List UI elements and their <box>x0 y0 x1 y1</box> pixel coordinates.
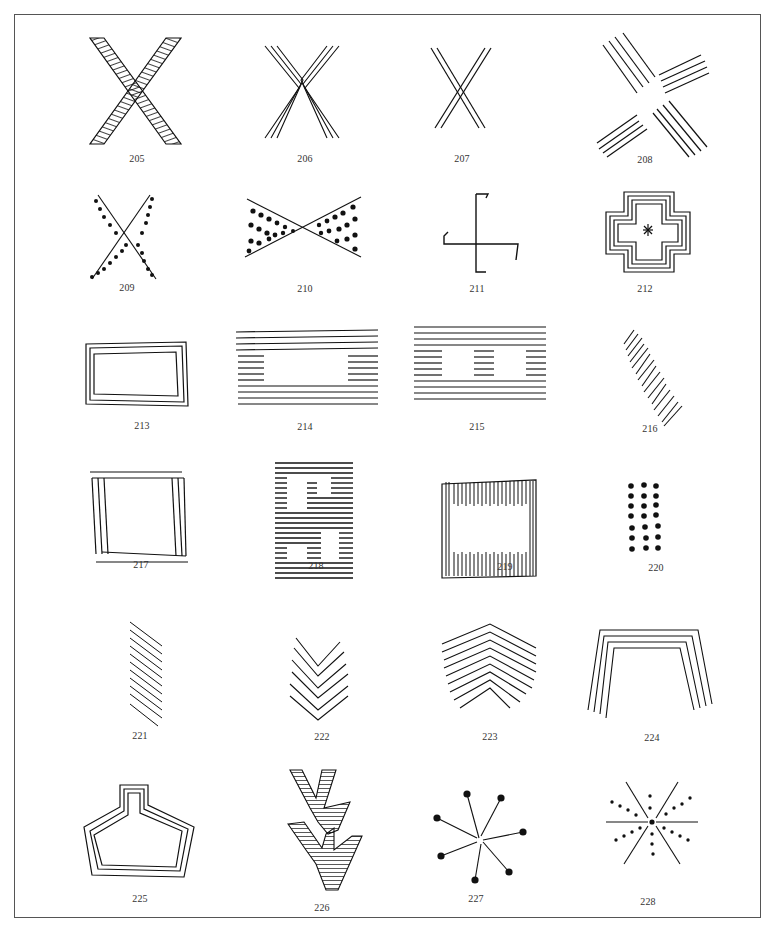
figure-221-slanted-parallel-lines <box>128 620 168 730</box>
figure-217-open-frame-with-double-sides <box>88 470 192 566</box>
figure-220-label: 220 <box>636 562 676 573</box>
figure-207-label: 207 <box>442 153 482 164</box>
figure-213-double-framed-rectangle <box>84 342 190 408</box>
figure-209-dotted-x <box>86 193 162 283</box>
figure-216-label: 216 <box>630 423 670 434</box>
figure-214-striped-band-with-panel <box>234 330 380 410</box>
figure-212-stepped-cross-with-star <box>600 190 692 274</box>
figure-225-label: 225 <box>120 893 160 904</box>
figure-214-label: 214 <box>285 421 325 432</box>
figure-215-striped-band-with-two-panels <box>412 325 548 407</box>
figure-221-label: 221 <box>120 730 160 741</box>
figure-226-hatched-branching-y <box>288 768 364 892</box>
figure-206-label: 206 <box>285 153 325 164</box>
figure-226-label: 226 <box>302 902 342 913</box>
figure-211-swastika-fylfot <box>440 192 520 274</box>
figure-224-nested-arch-lines <box>586 628 714 722</box>
figure-227-dotted-star-burst <box>435 790 527 882</box>
figure-218-label: 218 <box>296 560 336 571</box>
figure-210-dotted-hourglass <box>243 197 363 259</box>
figure-220-dot-grid <box>625 480 669 554</box>
figure-212-label: 212 <box>625 283 665 294</box>
figure-217-label: 217 <box>121 559 161 570</box>
figure-210-label: 210 <box>285 283 325 294</box>
figure-219-label: 219 <box>485 561 525 572</box>
figure-225-bottle-outline <box>84 783 204 879</box>
figure-227-label: 227 <box>456 893 496 904</box>
figure-222-label: 222 <box>302 731 342 742</box>
figure-206-triple-line-x <box>263 44 343 140</box>
figure-207-double-line-x <box>427 46 491 130</box>
figure-216-diagonal-hatched-band <box>620 328 684 428</box>
figure-211-label: 211 <box>457 283 497 294</box>
figure-205-label: 205 <box>117 153 157 164</box>
figure-224-label: 224 <box>632 732 672 743</box>
figure-209-label: 209 <box>107 282 147 293</box>
figure-208-label: 208 <box>625 154 665 165</box>
figure-213-label: 213 <box>122 420 162 431</box>
figure-222-nested-chevrons <box>288 636 358 720</box>
figure-215-label: 215 <box>457 421 497 432</box>
figure-223-nested-inverted-chevrons <box>438 622 540 714</box>
figure-228-six-ray-star-with-dots <box>606 780 698 866</box>
figure-205-hatched-x <box>88 36 183 148</box>
figure-228-label: 228 <box>628 896 668 907</box>
figure-208-quadruple-line-cross <box>593 33 713 158</box>
figure-223-label: 223 <box>470 731 510 742</box>
